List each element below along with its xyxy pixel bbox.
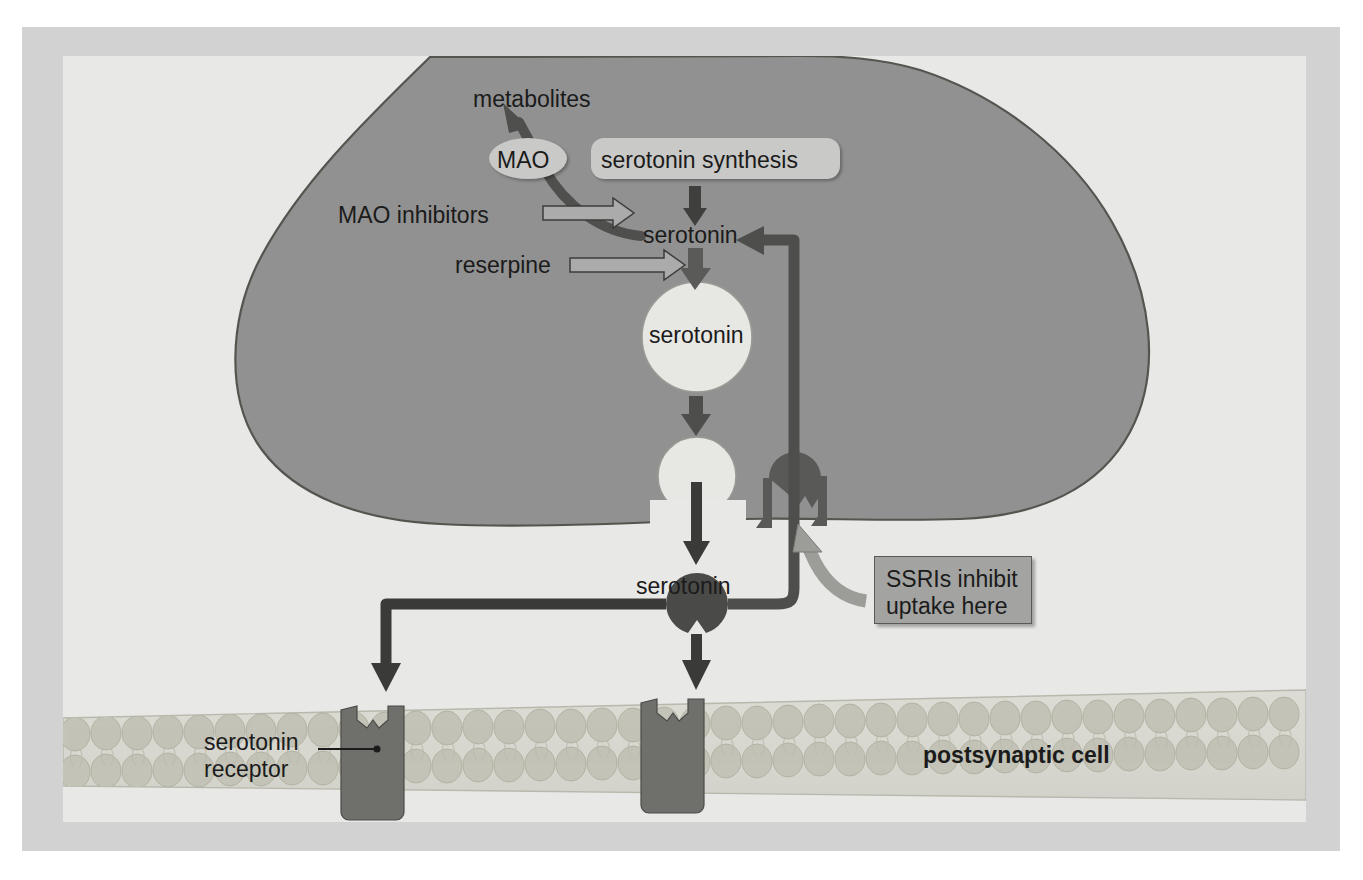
serotonin-receptor-left[interactable] [341,706,404,820]
label-metabolites: metabolites [473,86,591,113]
label-postsynaptic-cell: postsynaptic cell [923,742,1110,769]
serotonin-receptor-line-1: serotonin [204,729,299,755]
ssri-callout-arrow [793,524,866,601]
diagram-page: metabolites MAO serotonin synthesis MAO … [0,0,1363,880]
label-serotonin-vesicle: serotonin [649,322,744,349]
label-serotonin-cytoplasm: serotonin [643,222,738,249]
ssri-callout-line-1: SSRIs inhibit [886,566,1018,592]
serotonin-receptor-right[interactable] [641,699,704,813]
label-mao: MAO [497,147,549,174]
label-serotonin-receptor: serotoninreceptor [204,729,299,782]
label-serotonin-cleft: serotonin [636,573,731,600]
label-serotonin-synthesis: serotonin synthesis [601,147,798,174]
ssri-callout-line-2: uptake here [886,593,1007,619]
serotonin-receptor-line-2: receptor [204,756,288,782]
label-ssri-callout: SSRIs inhibituptake here [886,566,1018,619]
label-reserpine: reserpine [455,252,551,279]
arrow-cleft-to-right-receptor [682,634,711,690]
arrow-cleft-to-left-receptor [371,604,666,692]
label-mao-inhibitors: MAO inhibitors [338,202,489,229]
